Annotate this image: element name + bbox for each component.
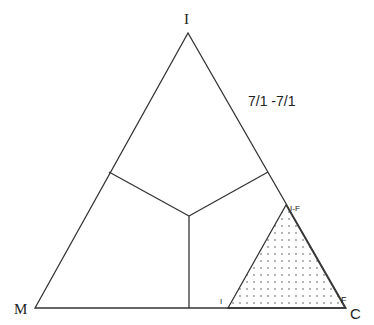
vertex-label-left: M	[14, 301, 27, 317]
dotted-subregion	[228, 205, 345, 308]
boundary-right	[189, 172, 268, 216]
subregion-base-right-label: F	[341, 295, 347, 305]
vertex-label-top: I	[184, 11, 189, 27]
ratio-label: 7/1 -7/1	[248, 93, 296, 109]
subregion-apex-label: I-F	[290, 204, 300, 213]
vertex-label-right: C	[350, 305, 361, 322]
boundary-left	[109, 172, 189, 216]
subregion-base-left-label: I	[220, 297, 222, 306]
ternary-diagram: I M C 7/1 -7/1 I-F I F	[0, 0, 374, 325]
